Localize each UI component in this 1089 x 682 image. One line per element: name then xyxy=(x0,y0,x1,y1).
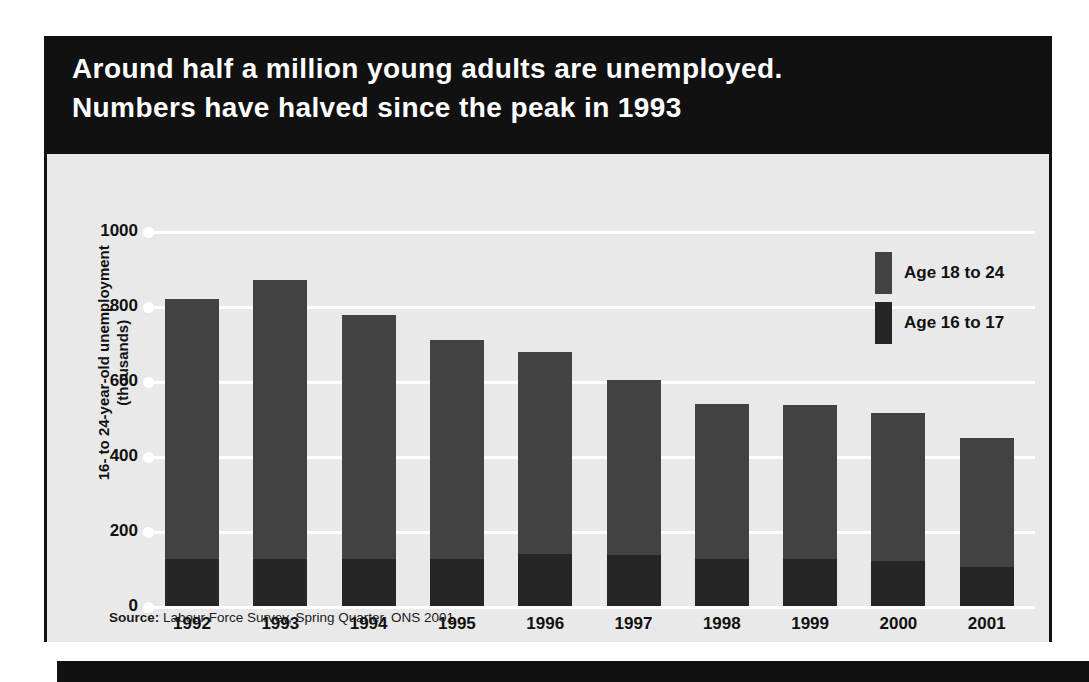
legend-item-age-18-to-24: Age 18 to 24 xyxy=(875,252,1004,294)
legend-item-age-16-to-17: Age 16 to 17 xyxy=(875,302,1004,344)
bar-segment-age-16-to-17[interactable] xyxy=(430,559,484,606)
chart-page: Around half a million young adults are u… xyxy=(0,0,1089,682)
bar-segment-age-16-to-17[interactable] xyxy=(960,567,1014,606)
source-label: Source: xyxy=(109,610,159,625)
source-text: Labour Force Survey, Spring Quarter, ONS… xyxy=(159,610,454,625)
bar-segment-age-16-to-17[interactable] xyxy=(165,559,219,606)
bar-column[interactable] xyxy=(253,280,307,606)
bar-segment-age-18-to-24[interactable] xyxy=(253,280,307,559)
chart-legend: Age 18 to 24 Age 16 to 17 xyxy=(875,252,1004,352)
y-tick-label: 400 xyxy=(110,446,138,466)
bar-segment-age-16-to-17[interactable] xyxy=(253,559,307,606)
plot-region: 16- to 24-year-old unemployment (thousan… xyxy=(47,154,1049,642)
bar-column[interactable] xyxy=(871,413,925,606)
bar-segment-age-16-to-17[interactable] xyxy=(518,554,572,606)
bar-segment-age-16-to-17[interactable] xyxy=(695,559,749,606)
x-tick-label: 1999 xyxy=(770,614,850,634)
bar-segment-age-16-to-17[interactable] xyxy=(607,555,661,606)
legend-swatch-icon xyxy=(875,302,892,344)
y-tick-label: 600 xyxy=(110,371,138,391)
y-tick-label: 800 xyxy=(110,296,138,316)
bar-column[interactable] xyxy=(518,352,572,606)
y-tick-label: 1000 xyxy=(100,221,138,241)
headline-line-2: Numbers have halved since the peak in 19… xyxy=(72,89,1026,128)
bar-segment-age-18-to-24[interactable] xyxy=(342,315,396,559)
headline-line-1: Around half a million young adults are u… xyxy=(72,50,1026,89)
bar-segment-age-16-to-17[interactable] xyxy=(783,559,837,606)
bottom-rule-divider xyxy=(57,661,1089,682)
bar-column[interactable] xyxy=(783,405,837,606)
bar-column[interactable] xyxy=(430,340,484,606)
bar-segment-age-18-to-24[interactable] xyxy=(607,380,661,556)
legend-swatch-icon xyxy=(875,252,892,294)
bar-segment-age-18-to-24[interactable] xyxy=(960,438,1014,566)
x-tick-label: 1998 xyxy=(682,614,762,634)
bar-segment-age-18-to-24[interactable] xyxy=(695,404,749,560)
bar-segment-age-18-to-24[interactable] xyxy=(871,413,925,561)
bar-segment-age-18-to-24[interactable] xyxy=(518,352,572,555)
bar-column[interactable] xyxy=(960,438,1014,606)
headline-band: Around half a million young adults are u… xyxy=(44,36,1052,154)
bar-segment-age-16-to-17[interactable] xyxy=(871,561,925,606)
bar-segment-age-18-to-24[interactable] xyxy=(430,340,484,559)
legend-label: Age 16 to 17 xyxy=(904,313,1004,333)
bar-segment-age-18-to-24[interactable] xyxy=(783,405,837,560)
x-tick-label: 2001 xyxy=(947,614,1027,634)
x-tick-label: 1996 xyxy=(505,614,585,634)
x-tick-label: 1997 xyxy=(594,614,674,634)
legend-label: Age 18 to 24 xyxy=(904,263,1004,283)
figure-panel: Around half a million young adults are u… xyxy=(44,36,1052,642)
bar-segment-age-16-to-17[interactable] xyxy=(342,559,396,606)
source-note: Source: Labour Force Survey, Spring Quar… xyxy=(109,610,454,625)
bar-column[interactable] xyxy=(165,299,219,607)
x-tick-label: 2000 xyxy=(858,614,938,634)
bar-column[interactable] xyxy=(342,315,396,606)
bar-column[interactable] xyxy=(695,404,749,607)
bar-column[interactable] xyxy=(607,380,661,606)
y-tick-label: 200 xyxy=(110,521,138,541)
gridline xyxy=(152,606,1035,609)
bar-segment-age-18-to-24[interactable] xyxy=(165,299,219,560)
